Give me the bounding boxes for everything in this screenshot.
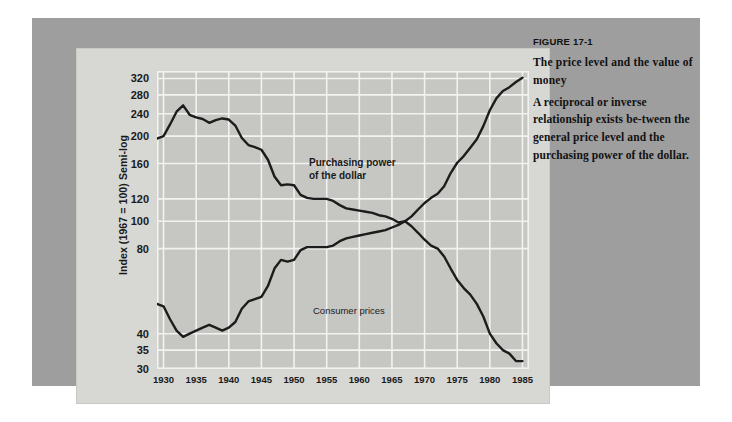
figure-root: Index (1967 = 100) Semi-log 320280240200… [0, 0, 732, 422]
plot-area: Purchasing power of the dollar Consumer … [157, 71, 529, 369]
series-line [157, 105, 522, 361]
x-tick-label: 1935 [186, 375, 207, 385]
x-tick-label: 1930 [153, 375, 174, 385]
series-lines [157, 78, 522, 361]
series-line [157, 78, 522, 337]
x-tick-label: 1940 [218, 375, 239, 385]
x-tick-label: 1955 [316, 375, 337, 385]
y-tick-label: 100 [131, 216, 149, 227]
figure-title: The price level and the value of money [533, 54, 693, 90]
x-tick-label: 1945 [251, 375, 272, 385]
y-tick-label: 320 [131, 73, 149, 84]
figure-description: A reciprocal or inverse relationship exi… [533, 94, 693, 165]
y-tick-label: 30 [137, 364, 149, 375]
y-tick-label: 160 [131, 158, 149, 169]
y-tick-label: 240 [131, 108, 149, 119]
x-tick-label: 1965 [381, 375, 402, 385]
chart-card: Index (1967 = 100) Semi-log 320280240200… [77, 49, 549, 403]
x-tick-label: 1980 [479, 375, 500, 385]
chart-canvas [157, 71, 529, 369]
figure-caption: FIGURE 17-1 The price level and the valu… [533, 36, 693, 165]
x-tick-label: 1960 [349, 375, 370, 385]
x-tick-label: 1970 [414, 375, 435, 385]
x-tick-label: 1950 [284, 375, 305, 385]
y-tick-label: 120 [131, 193, 149, 204]
x-tick-label: 1985 [512, 375, 533, 385]
y-tick-label: 200 [131, 131, 149, 142]
y-tick-label: 280 [131, 89, 149, 100]
figure-number: FIGURE 17-1 [533, 36, 693, 47]
y-tick-label: 40 [137, 328, 149, 339]
y-tick-label: 35 [137, 345, 149, 356]
x-axis-tick-labels: 1930193519401945195019551960196519701975… [157, 375, 529, 393]
x-tick-label: 1975 [447, 375, 468, 385]
grid-lines [157, 71, 529, 369]
y-axis-tick-labels: 32028024020016012010080403530 [77, 71, 153, 369]
y-tick-label: 80 [137, 243, 149, 254]
